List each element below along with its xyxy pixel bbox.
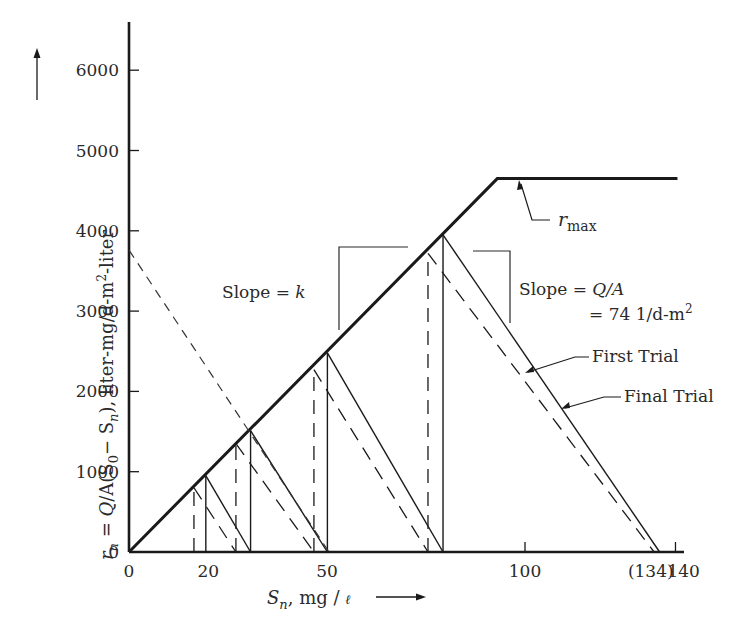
rmax-callout: rmax	[517, 180, 597, 234]
svg-text:rmax: rmax	[558, 208, 597, 234]
svg-text:Slope = k: Slope = k	[222, 282, 306, 302]
x-tick-label: 100	[509, 561, 541, 581]
final-trial-diagonal	[314, 370, 428, 552]
x-axis-label: Sn, mg / ℓ	[267, 587, 351, 612]
final-trial-callout: Final Trial	[561, 386, 714, 409]
slope-qa-annotation: Slope = Q/A = 74 1/d-m2	[473, 251, 693, 324]
final-trial-diagonal	[194, 488, 236, 552]
first-trial-diagonal	[206, 476, 251, 552]
x-tick-label: 0	[124, 561, 135, 581]
svg-text:Sn, mg / ℓ: Sn, mg / ℓ	[267, 587, 351, 612]
svg-text:Final Trial: Final Trial	[624, 386, 714, 406]
slope-k-annotation: Slope = k	[222, 247, 408, 330]
y-tick-label: 6000	[76, 60, 119, 80]
final-trial-diagonal	[236, 444, 314, 552]
svg-text:Slope = Q/A: Slope = Q/A	[519, 279, 624, 299]
svg-text:First Trial: First Trial	[592, 346, 679, 366]
y-axis-arrow-icon	[34, 48, 41, 100]
y-tick-label: 5000	[76, 141, 119, 161]
x-tick-label: 20	[197, 561, 219, 581]
first-trial-callout: First Trial	[525, 346, 679, 373]
x-tick-label: 140	[667, 561, 699, 581]
first-trial-diagonal	[327, 353, 443, 552]
svg-text:= 74 1/d-m2: = 74 1/d-m2	[589, 302, 693, 324]
chart-canvas: 010002000300040005000600002050100(134)14…	[0, 0, 737, 624]
x-axis-arrow-icon	[376, 594, 426, 601]
x-tick-label: 50	[316, 561, 338, 581]
